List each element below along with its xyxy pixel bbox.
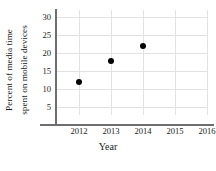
- y-axis-title-line-1: Percent of media time: [5, 29, 14, 111]
- data-point: [76, 79, 82, 85]
- x-axis-title: Year: [0, 142, 216, 152]
- gridline-vertical: [79, 10, 80, 115]
- y-axis-title-line-2: spent on mobile devices: [20, 25, 29, 115]
- x-tick-label: 2012: [70, 127, 87, 136]
- y-tick-label: 5: [47, 102, 51, 111]
- gridline-vertical: [175, 10, 176, 115]
- gridline-vertical: [143, 10, 144, 115]
- y-tick-label: 20: [42, 48, 51, 57]
- y-tick-label: 25: [42, 30, 51, 39]
- y-tick-label: 15: [42, 66, 51, 75]
- x-axis-line: [40, 124, 214, 126]
- y-axis-title: Percent of media time spent on mobile de…: [0, 0, 34, 140]
- x-axis-tick-labels: 2012 2013 2014 2015 2016: [0, 127, 216, 141]
- x-tick-label: 2013: [102, 127, 119, 136]
- y-axis-line: [55, 9, 57, 124]
- x-tick-label: 2015: [166, 127, 183, 136]
- x-tick-label: 2016: [198, 127, 215, 136]
- y-axis-tick-labels: 30 25 20 15 10 5: [31, 0, 51, 140]
- y-tick-label: 10: [42, 84, 51, 93]
- x-tick-label: 2014: [134, 127, 151, 136]
- gridline-vertical: [207, 10, 208, 115]
- y-tick-label: 30: [42, 12, 51, 21]
- scatter-plot-figure: Percent of media time spent on mobile de…: [0, 0, 216, 171]
- plot-area: [57, 10, 207, 115]
- data-point: [108, 58, 114, 64]
